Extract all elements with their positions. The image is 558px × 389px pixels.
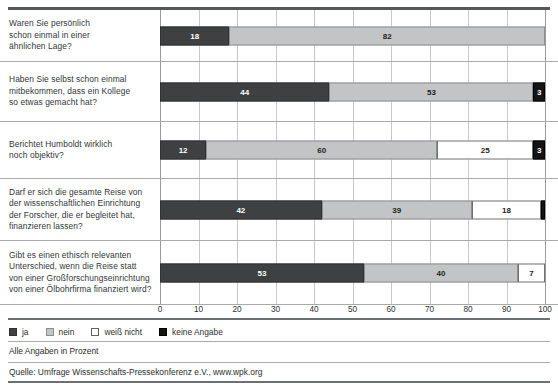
question-label-line: Darf er sich die gesamte Reise von (9, 187, 142, 198)
bar-segment-value: 12 (179, 146, 188, 155)
bar-segment-value: 25 (481, 146, 490, 155)
bar-segment-value: 18 (502, 205, 511, 214)
question-label-line: mitbekommen, dass ein Kollege (9, 86, 130, 97)
bar-segment-nein: 39 (322, 200, 472, 219)
bar-segment-value: 3 (537, 87, 541, 96)
chart-rows: Waren Sie persönlichschon einmal in eine… (0, 10, 558, 305)
bar-segment-ja: 44 (160, 82, 329, 101)
axis-tick-label: 50 (348, 305, 357, 314)
question-label-line: Waren Sie persönlich (9, 18, 90, 29)
bar-segment-nein: 53 (329, 82, 533, 101)
stacked-bar: 53407 (160, 263, 545, 282)
bar-segment-value: 7 (529, 268, 533, 277)
question-label-line: der wissenschaftlichen Einrichtung (9, 198, 142, 209)
question-label-line: ähnlichen Lage? (9, 41, 90, 52)
chart-row: Waren Sie persönlichschon einmal in eine… (0, 10, 558, 62)
bar-segment-value: 42 (236, 205, 245, 214)
bar-segment-value: 40 (437, 268, 446, 277)
question-label: Darf er sich die gesamte Reise vonder wi… (9, 179, 154, 240)
bar-segment-value: 44 (240, 87, 249, 96)
legend-label: weiß nicht (104, 327, 142, 337)
question-label-line: schon einmal in einer (9, 30, 90, 41)
axis-tick-label: 40 (309, 305, 318, 314)
bar-segment-value: 39 (392, 205, 401, 214)
question-label-line: Berichtet Humboldt wirklich (9, 139, 112, 150)
legend-label: keine Angabe (172, 327, 223, 337)
bar-segment-value: 82 (383, 31, 392, 40)
bar-segment-value: 18 (190, 31, 199, 40)
bar-segment-weiß-nicht: 7 (518, 263, 545, 282)
legend-divider (8, 341, 550, 342)
axis-tick-label: 100 (538, 305, 552, 314)
legend-label: nein (59, 327, 75, 337)
axis-tick-label: 80 (463, 305, 472, 314)
axis-tick-label: 20 (232, 305, 241, 314)
legend-item-ja[interactable]: ja (9, 327, 29, 337)
axis-tick-label: 0 (158, 305, 163, 314)
question-label-line: Gibt es einen ethisch relevanten (9, 250, 151, 261)
axis-divider (8, 318, 550, 320)
bar-segment-value: 60 (317, 146, 326, 155)
legend-swatch-keine (159, 328, 167, 336)
bar-segment-value: 53 (258, 268, 267, 277)
axis-tick-label: 70 (425, 305, 434, 314)
bar-segment-weiß-nicht: 18 (472, 200, 541, 219)
unit-note: Alle Angaben in Prozent (9, 346, 98, 356)
bar-segment-ja: 18 (160, 26, 229, 45)
question-label-line: Unterschied, wenn die Reise statt (9, 261, 151, 272)
bar-segment-keine-Angabe: 3 (533, 82, 545, 101)
question-label-line: so etwas gemacht hat? (9, 97, 130, 108)
note-divider (8, 362, 550, 363)
question-label: Haben Sie selbst schon einmalmitbekommen… (9, 62, 154, 121)
legend-item-keine[interactable]: keine Angabe (159, 327, 223, 337)
stacked-bar: 44533 (160, 82, 545, 101)
bar-segment-keine-Angabe (541, 200, 545, 219)
axis-tick-label: 10 (194, 305, 203, 314)
bottom-divider (8, 381, 550, 383)
axis-tick-label: 60 (386, 305, 395, 314)
chart-row: Haben Sie selbst schon einmalmitbekommen… (0, 62, 558, 122)
question-label: Berichtet Humboldt wirklichnoch objektiv… (9, 122, 154, 178)
bar-segment-nein: 82 (229, 26, 545, 45)
legend-label: ja (22, 327, 29, 337)
legend-swatch-weiss (91, 328, 99, 336)
stacked-bar: 1882 (160, 26, 545, 45)
bar-segment-weiß-nicht: 25 (437, 141, 533, 160)
legend-item-nein[interactable]: nein (46, 327, 75, 337)
bar-segment-value: 53 (427, 87, 436, 96)
chart-row: Darf er sich die gesamte Reise vonder wi… (0, 179, 558, 241)
survey-stacked-bar-chart: Waren Sie persönlichschon einmal in eine… (0, 0, 558, 389)
bar-segment-ja: 12 (160, 141, 206, 160)
stacked-bar: 423918 (160, 200, 545, 219)
bar-segment-nein: 40 (364, 263, 518, 282)
bar-segment-nein: 60 (206, 141, 437, 160)
bar-segment-value: 3 (537, 146, 541, 155)
question-label-line: noch objektiv? (9, 150, 112, 161)
chart-row: Gibt es einen ethisch relevantenUntersch… (0, 241, 558, 305)
bar-segment-ja: 42 (160, 200, 322, 219)
axis-tick-label: 30 (271, 305, 280, 314)
question-label-line: von einer Großforschungseinrichtung (9, 273, 151, 284)
source-note: Quelle: Umfrage Wissenschafts-Pressekonf… (9, 367, 262, 377)
legend-swatch-ja (9, 328, 17, 336)
legend-swatch-nein (46, 328, 54, 336)
axis-tick-label: 90 (502, 305, 511, 314)
bar-segment-keine-Angabe: 3 (533, 141, 545, 160)
question-label-line: von einer Ölbohrfirma finanziert wird? (9, 284, 151, 295)
question-label-line: Haben Sie selbst schon einmal (9, 74, 130, 85)
question-label: Gibt es einen ethisch relevantenUntersch… (9, 241, 154, 304)
chart-row: Berichtet Humboldt wirklichnoch objektiv… (0, 122, 558, 179)
question-label: Waren Sie persönlichschon einmal in eine… (9, 10, 154, 61)
bar-segment-ja: 53 (160, 263, 364, 282)
question-label-line: finanzieren lassen? (9, 221, 142, 232)
question-label-line: der Forscher, die er begleitet hat, (9, 210, 142, 221)
x-axis-ticks: 0102030405060708090100 (160, 305, 545, 319)
chart-legend: janeinweiß nichtkeine Angabe (9, 323, 240, 340)
legend-item-weiss[interactable]: weiß nicht (91, 327, 142, 337)
stacked-bar: 1260253 (160, 141, 545, 160)
